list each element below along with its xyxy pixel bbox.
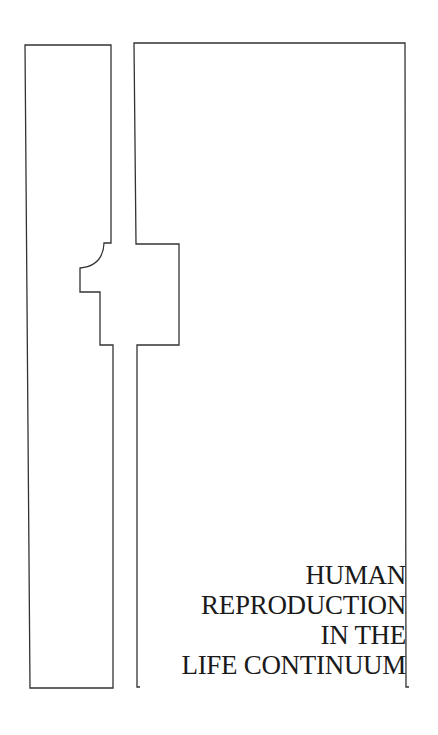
title-line-4: LIFE CONTINUUM <box>181 650 406 680</box>
title-line-2: REPRODUCTION <box>181 590 406 620</box>
title-line-1: HUMAN <box>181 560 406 590</box>
left-frame-outline <box>25 45 113 688</box>
book-title: HUMAN REPRODUCTION IN THE LIFE CONTINUUM <box>181 560 406 680</box>
title-line-3: IN THE <box>181 620 406 650</box>
